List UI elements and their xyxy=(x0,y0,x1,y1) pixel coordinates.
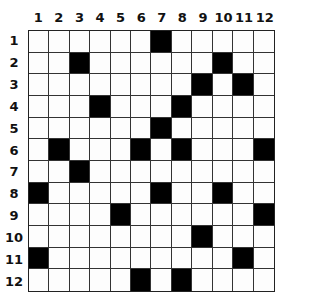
white-cell[interactable] xyxy=(172,74,192,96)
white-cell[interactable] xyxy=(70,226,90,248)
white-cell[interactable] xyxy=(90,31,110,53)
white-cell[interactable] xyxy=(151,74,171,96)
white-cell[interactable] xyxy=(192,139,212,161)
white-cell[interactable] xyxy=(254,53,274,75)
white-cell[interactable] xyxy=(90,118,110,140)
white-cell[interactable] xyxy=(131,53,151,75)
white-cell[interactable] xyxy=(254,161,274,183)
white-cell[interactable] xyxy=(151,204,171,226)
white-cell[interactable] xyxy=(172,248,192,270)
white-cell[interactable] xyxy=(172,31,192,53)
white-cell[interactable] xyxy=(151,161,171,183)
white-cell[interactable] xyxy=(233,226,253,248)
white-cell[interactable] xyxy=(70,118,90,140)
white-cell[interactable] xyxy=(29,139,49,161)
white-cell[interactable] xyxy=(254,74,274,96)
white-cell[interactable] xyxy=(90,183,110,205)
white-cell[interactable] xyxy=(90,139,110,161)
white-cell[interactable] xyxy=(254,248,274,270)
white-cell[interactable] xyxy=(90,74,110,96)
white-cell[interactable] xyxy=(192,118,212,140)
white-cell[interactable] xyxy=(111,139,131,161)
white-cell[interactable] xyxy=(213,74,233,96)
white-cell[interactable] xyxy=(49,226,69,248)
white-cell[interactable] xyxy=(233,31,253,53)
white-cell[interactable] xyxy=(111,226,131,248)
white-cell[interactable] xyxy=(192,96,212,118)
white-cell[interactable] xyxy=(233,118,253,140)
white-cell[interactable] xyxy=(213,118,233,140)
white-cell[interactable] xyxy=(233,139,253,161)
white-cell[interactable] xyxy=(192,269,212,291)
white-cell[interactable] xyxy=(90,161,110,183)
white-cell[interactable] xyxy=(70,269,90,291)
white-cell[interactable] xyxy=(151,248,171,270)
white-cell[interactable] xyxy=(70,139,90,161)
white-cell[interactable] xyxy=(111,74,131,96)
white-cell[interactable] xyxy=(233,96,253,118)
white-cell[interactable] xyxy=(213,96,233,118)
white-cell[interactable] xyxy=(90,269,110,291)
white-cell[interactable] xyxy=(70,96,90,118)
white-cell[interactable] xyxy=(151,226,171,248)
white-cell[interactable] xyxy=(70,204,90,226)
white-cell[interactable] xyxy=(131,161,151,183)
white-cell[interactable] xyxy=(29,96,49,118)
white-cell[interactable] xyxy=(213,269,233,291)
white-cell[interactable] xyxy=(49,269,69,291)
white-cell[interactable] xyxy=(192,53,212,75)
white-cell[interactable] xyxy=(254,269,274,291)
white-cell[interactable] xyxy=(131,204,151,226)
white-cell[interactable] xyxy=(29,226,49,248)
white-cell[interactable] xyxy=(254,31,274,53)
white-cell[interactable] xyxy=(90,248,110,270)
white-cell[interactable] xyxy=(213,226,233,248)
white-cell[interactable] xyxy=(172,53,192,75)
white-cell[interactable] xyxy=(192,161,212,183)
white-cell[interactable] xyxy=(254,226,274,248)
white-cell[interactable] xyxy=(213,139,233,161)
white-cell[interactable] xyxy=(233,183,253,205)
white-cell[interactable] xyxy=(49,96,69,118)
white-cell[interactable] xyxy=(111,31,131,53)
white-cell[interactable] xyxy=(233,161,253,183)
white-cell[interactable] xyxy=(131,118,151,140)
white-cell[interactable] xyxy=(192,31,212,53)
white-cell[interactable] xyxy=(70,31,90,53)
white-cell[interactable] xyxy=(131,226,151,248)
white-cell[interactable] xyxy=(70,248,90,270)
white-cell[interactable] xyxy=(29,31,49,53)
white-cell[interactable] xyxy=(70,74,90,96)
white-cell[interactable] xyxy=(213,161,233,183)
white-cell[interactable] xyxy=(254,183,274,205)
white-cell[interactable] xyxy=(111,118,131,140)
white-cell[interactable] xyxy=(90,53,110,75)
white-cell[interactable] xyxy=(254,118,274,140)
white-cell[interactable] xyxy=(49,53,69,75)
white-cell[interactable] xyxy=(49,118,69,140)
white-cell[interactable] xyxy=(29,269,49,291)
white-cell[interactable] xyxy=(29,74,49,96)
white-cell[interactable] xyxy=(49,74,69,96)
white-cell[interactable] xyxy=(29,118,49,140)
white-cell[interactable] xyxy=(131,96,151,118)
white-cell[interactable] xyxy=(49,31,69,53)
white-cell[interactable] xyxy=(111,269,131,291)
white-cell[interactable] xyxy=(172,118,192,140)
white-cell[interactable] xyxy=(111,96,131,118)
white-cell[interactable] xyxy=(213,31,233,53)
white-cell[interactable] xyxy=(192,248,212,270)
white-cell[interactable] xyxy=(151,269,171,291)
white-cell[interactable] xyxy=(131,183,151,205)
white-cell[interactable] xyxy=(111,53,131,75)
white-cell[interactable] xyxy=(70,183,90,205)
white-cell[interactable] xyxy=(111,248,131,270)
white-cell[interactable] xyxy=(131,74,151,96)
white-cell[interactable] xyxy=(90,204,110,226)
white-cell[interactable] xyxy=(172,204,192,226)
white-cell[interactable] xyxy=(151,139,171,161)
white-cell[interactable] xyxy=(213,204,233,226)
white-cell[interactable] xyxy=(49,204,69,226)
white-cell[interactable] xyxy=(151,53,171,75)
white-cell[interactable] xyxy=(29,53,49,75)
